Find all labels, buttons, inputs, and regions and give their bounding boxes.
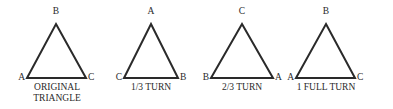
triangle-figure-original: B A C ORIGINAL TRIANGLE [0,0,103,109]
vertex-label-apex: C [239,7,245,17]
figure-root: B A C ORIGINAL TRIANGLE A C B 1/3 TURN C… [0,0,393,109]
figure-caption: 1/3 TURN [106,82,196,93]
figure-caption: 1 FULL TURN [274,82,378,93]
vertex-label-apex: B [53,7,59,17]
vertex-label-apex: A [148,7,155,17]
figure-caption: ORIGINAL TRIANGLE [7,82,107,103]
vertex-label-apex: B [323,7,329,17]
triangle-figure-one-third-turn: A C B 1/3 TURN [103,0,195,109]
triangle-figure-two-thirds-turn: C B A 2/3 TURN [195,0,285,109]
triangle-figure-full-turn: B A C 1 FULL TURN [285,0,393,109]
triangle-shape [285,0,393,109]
